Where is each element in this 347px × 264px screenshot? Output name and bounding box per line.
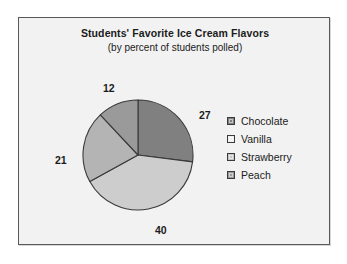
legend-item-strawberry: Strawberry: [227, 148, 327, 166]
legend-item-chocolate: Chocolate: [227, 112, 327, 130]
legend-label-strawberry: Strawberry: [241, 151, 292, 163]
pie-slice-chocolate: [138, 100, 193, 162]
legend-swatch-chocolate: [227, 117, 235, 125]
chart-frame: Students' Favorite Ice Cream Flavors (by…: [18, 17, 330, 245]
pie-chart-figure: Students' Favorite Ice Cream Flavors (by…: [0, 0, 347, 264]
slice-value-strawberry: 21: [55, 154, 67, 166]
legend-label-vanilla: Vanilla: [241, 133, 272, 145]
legend-item-peach: Peach: [227, 166, 327, 184]
pie-svg: [82, 99, 194, 211]
legend-swatch-strawberry: [227, 153, 235, 161]
chart-legend: Chocolate Vanilla Strawberry Peach: [227, 112, 327, 184]
legend-label-chocolate: Chocolate: [241, 115, 288, 127]
legend-label-peach: Peach: [241, 169, 271, 181]
legend-item-vanilla: Vanilla: [227, 130, 327, 148]
legend-swatch-peach: [227, 171, 235, 179]
slice-value-vanilla: 40: [155, 224, 167, 236]
chart-subtitle: (by percent of students polled): [19, 42, 331, 53]
slice-value-peach: 12: [103, 82, 115, 94]
pie-graphic: [82, 99, 194, 211]
legend-swatch-vanilla: [227, 135, 235, 143]
chart-title: Students' Favorite Ice Cream Flavors: [19, 27, 331, 39]
slice-value-chocolate: 27: [199, 109, 211, 121]
